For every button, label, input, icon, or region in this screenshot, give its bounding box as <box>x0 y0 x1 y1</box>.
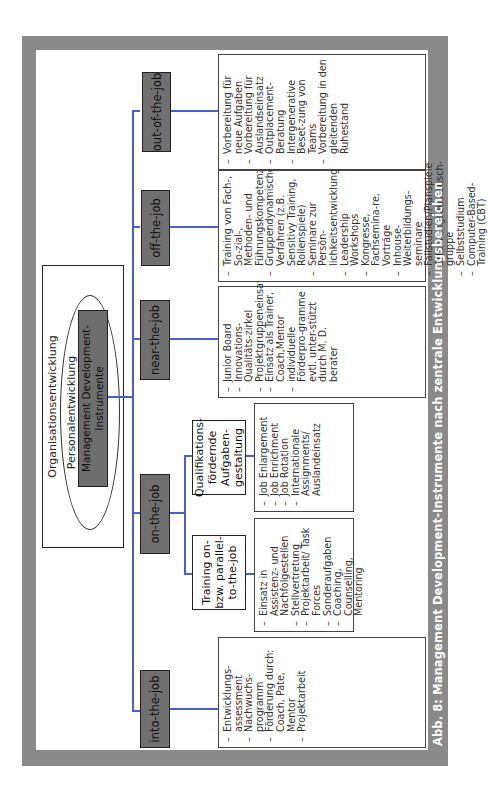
figure: Organisationsentwicklung Personalentwick… <box>22 36 448 766</box>
connector-on-sub-h <box>184 457 186 575</box>
list-item: Vorbereitung in den gleitenden Ruhestand <box>318 59 350 164</box>
list-item: Projektarbeit <box>297 642 308 742</box>
figure-caption: Abb. 8: Management Development-Instrumen… <box>429 46 447 750</box>
list-item: Intergenerative Beset-zung von Teams <box>287 59 319 164</box>
md-instruments-box: Management Development-Instrumente <box>78 310 108 487</box>
org-development-label: Organisationsentwicklung <box>46 266 59 547</box>
list-item: Einsatz als Trainer, Coach,Mentor <box>265 291 286 392</box>
figure-canvas: Organisationsentwicklung Personalentwick… <box>36 50 428 750</box>
list-item: Outplacement-Beratung <box>265 59 286 164</box>
list-item: Vorbereitung für neue Aufgaben <box>223 59 244 164</box>
list-item: Job Enlargement <box>259 408 270 506</box>
category-into-the-job: into-the-job <box>140 670 170 748</box>
connector-off-content <box>170 227 218 229</box>
list-item: Förderung durch: Coach, Pate, Mentor <box>265 642 297 742</box>
connector-core <box>108 397 132 399</box>
connector-out-content <box>170 111 218 113</box>
list-item: Nachwuchs-programm <box>244 642 265 742</box>
connector-into-content <box>170 709 218 711</box>
list-item: Vorbereitung für Auslandseinsatz <box>244 59 265 164</box>
content-into-the-job: Entwicklungs-assessment Nachwuchs-progra… <box>218 637 426 748</box>
category-out-of-the-job: out-of-the-job <box>142 72 171 152</box>
list-item: Coaching, Counselling, Mentoring <box>333 523 365 626</box>
list-item: Inhouse-Weiterbildungs-seminare <box>393 175 425 276</box>
connector-off <box>132 227 140 229</box>
connector-out <box>132 111 140 113</box>
list-item: individuelle Förderpro-gramme evtl. unte… <box>287 291 340 392</box>
list-item: Entwicklungs-assessment <box>223 642 244 742</box>
list-item: Innovations-Qualitäts-zirkel <box>234 291 255 392</box>
connector-near-content <box>170 339 218 341</box>
category-on-the-job: on-the-job <box>140 474 170 554</box>
content-qualification-tasks: Job Enlargement Job Enrichment Job Rotat… <box>254 403 354 512</box>
list-item: Training von Fach-, So-zial-, Methoden- … <box>223 175 265 276</box>
personnel-development-label: Personalentwicklung <box>65 296 78 529</box>
connector-qualification <box>184 456 192 458</box>
connector-near <box>132 339 140 341</box>
connector-trunk <box>132 112 134 712</box>
content-off-the-job: Training von Fach-, So-zial-, Methoden- … <box>218 170 426 282</box>
list-item: Einsatz in Assistenz- und Nachfolgestell… <box>259 523 291 626</box>
list-item: Junior Board <box>223 291 234 392</box>
list-item: Computer-Based-Training (CBT) <box>467 175 488 276</box>
content-training-parallel: Einsatz in Assistenz- und Nachfolgestell… <box>254 518 354 632</box>
connector-on-sub <box>170 513 184 515</box>
subcategory-training-parallel: Training on- bzw. parallel-to-the-job <box>192 535 246 610</box>
list-item: Gruppendynamische Verfahren (z.B. Sensit… <box>265 175 307 276</box>
list-item: Internationale Assignments/ Auslandeinsa… <box>291 408 323 506</box>
content-out-of-the-job: Vorbereitung für neue Aufgaben Vorbereit… <box>218 54 426 170</box>
list-item: Projektarbeit/ Task Forces <box>301 523 322 626</box>
category-near-the-job: near-the-job <box>140 300 170 380</box>
content-near-the-job: Junior Board Innovations-Qualitäts-zirke… <box>218 286 426 398</box>
subcategory-qualification-tasks: Qualifikations-fördernde Aufgaben-gestal… <box>192 420 246 495</box>
connector-training-content <box>246 574 254 576</box>
list-item: Leadership Workshops <box>340 175 361 276</box>
category-off-the-job: off-the-job <box>141 190 170 266</box>
list-item: Seminare zur Persön-lichkeitsentwicklung <box>308 175 340 276</box>
connector-on <box>132 513 140 515</box>
connector-training <box>184 574 192 576</box>
list-item: Kongresse, Fachsemina-re, Vorträge <box>361 175 393 276</box>
connector-qualification-content <box>246 456 254 458</box>
